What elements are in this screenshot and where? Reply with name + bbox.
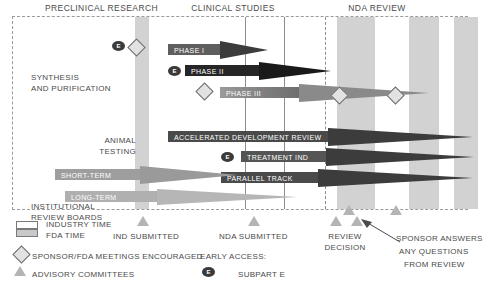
bar-label: LONG-TERM — [71, 193, 117, 200]
early-access-preclinical: E — [112, 41, 125, 51]
bar-tip-arrow — [259, 62, 331, 80]
bar-parallel-track: PARALLEL TRACK — [221, 172, 473, 183]
bar-phase-1: PHASE I — [168, 44, 268, 55]
sponsor-meetings-diamond-icon — [12, 245, 30, 263]
ind-submitted-triangle-icon — [137, 216, 149, 226]
bar-label: SHORT-TERM — [61, 171, 111, 178]
subpart-e-label: SUBPART E — [238, 270, 285, 280]
row-label-2: ANIMAL — [68, 135, 136, 146]
bar-tip-arrow — [328, 128, 473, 146]
bar-label: ACCELERATED DEVELOPMENT REVIEW — [174, 133, 322, 140]
sponsor-meetings-label: SPONSOR/FDA MEETINGS ENCOURAGED — [32, 252, 203, 262]
early-access-title: EARLY ACCESS: — [200, 252, 266, 262]
bar-tip-arrow — [318, 169, 473, 187]
review-decision-triangle-icon-1 — [330, 216, 342, 226]
nda-submitted-label: NDA SUBMITTED — [219, 232, 288, 242]
bar-phase-2: PHASE II — [185, 65, 331, 76]
chart-frame: PHASE IPHASE IIPHASE IIIACCELERATED DEVE… — [12, 16, 468, 210]
bar-tip-arrow — [326, 148, 474, 166]
subpart-e-ellipse-icon: E — [202, 267, 215, 277]
triangle-review-2 — [390, 205, 402, 215]
row-label-0: SYNTHESIS — [31, 72, 141, 83]
bar-label: PHASE III — [226, 89, 261, 96]
bar-label: PARALLEL TRACK — [227, 174, 293, 181]
sponsor-answers-line2: ANY QUESTIONS — [399, 247, 469, 257]
bar-label: TREATMENT IND — [247, 153, 308, 160]
bar-label: PHASE I — [174, 46, 204, 53]
row-label-1: AND PURIFICATION — [31, 83, 141, 94]
industry-time-label: INDUSTRY TIME — [46, 220, 112, 230]
review-decision-line2: DECISION — [312, 243, 378, 253]
advisory-committees-triangle-icon — [14, 266, 26, 276]
bar-tip-arrow — [157, 189, 297, 205]
early-access-phase2: E — [168, 66, 181, 76]
bar-tip-arrow — [299, 84, 429, 102]
column-header-0: PRECLINICAL RESEARCH — [14, 3, 189, 13]
fda-time-label: FDA TIME — [46, 231, 85, 241]
early-access-treatment-ind: E — [221, 152, 234, 162]
bar-accelerated-development-review: ACCELERATED DEVELOPMENT REVIEW — [168, 131, 473, 142]
drug-development-timeline-diagram: PRECLINICAL RESEARCHCLINICAL STUDIESNDA … — [0, 0, 485, 295]
bar-label: PHASE II — [191, 67, 224, 74]
sponsor-answers-line3: FROM REVIEW — [404, 260, 465, 270]
fda-time-swatch — [16, 229, 38, 237]
bar-short-term: SHORT-TERM — [55, 169, 238, 180]
triangle-review-1 — [343, 205, 355, 215]
diamond-phase3-start — [195, 82, 213, 100]
column-header-2: NDA REVIEW — [318, 3, 436, 13]
row-label-4: INSTITUTIONAL — [31, 201, 141, 212]
row-label-3: TESTING — [68, 146, 136, 157]
bar-tip-arrow — [140, 166, 238, 184]
sponsor-answers-line1: SPONSOR ANSWERS — [396, 234, 483, 244]
ind-submitted-label: IND SUBMITTED — [113, 232, 179, 242]
advisory-committees-label: ADVISORY COMMITTEES — [32, 270, 134, 280]
bar-tip-arrow — [220, 41, 268, 59]
industry-time-swatch — [16, 221, 38, 229]
nda-submitted-triangle-icon — [248, 216, 260, 226]
bar-treatment-ind: TREATMENT IND — [241, 151, 474, 162]
column-header-1: CLINICAL STUDIES — [168, 3, 298, 13]
